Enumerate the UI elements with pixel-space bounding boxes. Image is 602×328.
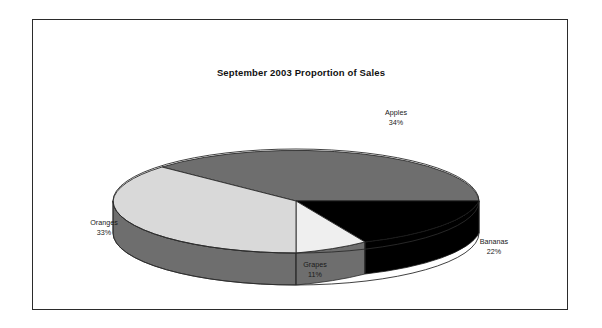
pie-label-oranges-value: 33%: [73, 228, 135, 238]
pie-label-apples-name: Apples: [366, 108, 426, 118]
chart-figure: September 2003 Proportion of Sales: [0, 0, 602, 328]
pie-label-bananas: Bananas 22%: [463, 237, 525, 256]
pie-label-apples-value: 34%: [366, 118, 426, 128]
pie-label-bananas-name: Bananas: [463, 237, 525, 247]
pie-label-apples: Apples 34%: [366, 108, 426, 127]
pie-label-oranges-name: Oranges: [73, 218, 135, 228]
pie-label-bananas-value: 22%: [463, 247, 525, 257]
pie-label-oranges: Oranges 33%: [73, 218, 135, 237]
pie-label-grapes-name: Grapes: [285, 260, 345, 270]
pie-label-grapes: Grapes 11%: [285, 260, 345, 279]
pie-label-grapes-value: 11%: [285, 270, 345, 280]
chart-frame: September 2003 Proportion of Sales: [32, 19, 568, 310]
